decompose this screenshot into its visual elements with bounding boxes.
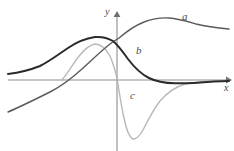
curve-b-path	[8, 37, 229, 83]
curve-label-c: c	[130, 90, 135, 101]
curve-c-path	[62, 44, 229, 139]
curve-label-a: a	[182, 11, 188, 22]
function-graph-figure: a b c y x	[0, 0, 234, 151]
y-axis-arrow-icon	[114, 11, 121, 17]
curve-label-b: b	[136, 45, 142, 56]
y-axis-label: y	[105, 7, 109, 17]
x-axis-label: x	[224, 83, 228, 93]
plot-canvas	[0, 0, 234, 151]
